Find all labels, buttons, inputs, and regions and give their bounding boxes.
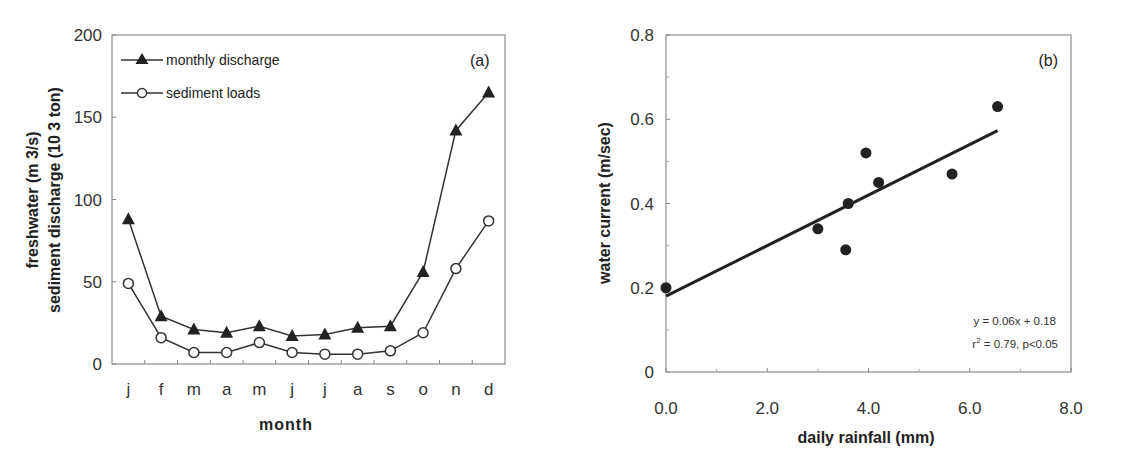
x-tick-label: a (353, 380, 363, 399)
circle-marker-icon (320, 349, 330, 359)
circle-marker-icon (418, 328, 428, 338)
data-point (992, 101, 1003, 112)
y-tick-label: 50 (83, 273, 102, 292)
circle-marker-icon (189, 347, 199, 357)
triangle-marker-icon (187, 322, 200, 334)
x-tick-label: j (322, 380, 327, 399)
regression-stats: r2 = 0.79, p<0.05 (972, 336, 1058, 350)
y-tick-label: 150 (74, 108, 102, 127)
circle-marker-icon (484, 216, 494, 226)
x-axis-title-b: daily rainfall (mm) (798, 429, 935, 446)
circle-marker-icon (353, 349, 363, 359)
y-axis-title-b: water current (m/sec) (596, 122, 613, 285)
x-tick-label: 2.0 (755, 399, 779, 418)
y-tick-label: 0.6 (630, 110, 654, 129)
x-tick-label: m (252, 380, 266, 399)
figure: 050100150200 jfmamjjasond monthly discha… (0, 0, 1144, 464)
data-point (843, 198, 854, 209)
regression-equation: y = 0.06x + 0.18 (974, 315, 1056, 327)
y-tick-label: 100 (74, 191, 102, 210)
triangle-marker-icon (122, 212, 135, 224)
y-tick-label: 0.4 (630, 195, 654, 214)
y-tick-label: 0.2 (630, 279, 654, 298)
circle-marker-icon (156, 333, 166, 343)
chart-b: 00.20.40.60.8 0.02.04.06.08.0 (b) y = 0.… (596, 26, 1083, 446)
x-tick-label: n (451, 380, 460, 399)
circle-marker-icon (222, 347, 232, 357)
data-point (947, 169, 958, 180)
x-tick-label: 8.0 (1059, 399, 1083, 418)
triangle-marker-icon (482, 86, 495, 98)
data-point (840, 244, 851, 255)
triangle-marker-icon (136, 53, 149, 64)
x-tick-label: j (289, 380, 294, 399)
panel-label-b: (b) (1038, 52, 1058, 69)
triangle-marker-icon (155, 309, 168, 321)
data-point (860, 147, 871, 158)
x-axis-title-a: month (259, 416, 313, 433)
data-point (661, 282, 672, 293)
x-tick-label: d (484, 380, 493, 399)
x-tick-label: s (386, 380, 395, 399)
circle-marker-icon (287, 347, 297, 357)
circle-marker-icon (254, 338, 264, 348)
circle-marker-icon (138, 89, 147, 98)
series-a (122, 86, 495, 360)
y-axis-b: 00.20.40.60.8 (630, 26, 670, 382)
x-tick-label: o (418, 380, 427, 399)
data-point (812, 223, 823, 234)
scatter-points (661, 101, 1004, 293)
legend-label-discharge: monthly discharge (166, 52, 280, 68)
x-axis-b: 0.02.04.06.08.0 (654, 368, 1083, 418)
y-tick-label: 200 (74, 26, 102, 45)
y-axis-title-a-line2: sediment discharge (10 3 ton) (46, 87, 63, 313)
circle-marker-icon (451, 264, 461, 274)
x-tick-label: a (222, 380, 232, 399)
legend-a: monthly discharge sediment loads (121, 52, 280, 101)
x-tick-label: 0.0 (654, 399, 678, 418)
triangle-marker-icon (384, 319, 397, 331)
triangle-marker-icon (253, 319, 266, 331)
triangle-marker-icon (417, 265, 430, 277)
chart-a: 050100150200 jfmamjjasond monthly discha… (24, 26, 505, 433)
x-tick-label: 4.0 (857, 399, 881, 418)
y-tick-label: 0 (645, 363, 654, 382)
series-line (128, 221, 488, 354)
x-tick-label: j (125, 380, 130, 399)
x-tick-label: m (187, 380, 201, 399)
series-line (128, 93, 488, 336)
data-point (873, 177, 884, 188)
circle-marker-icon (385, 346, 395, 356)
x-axis-a: jfmamjjasond (125, 360, 493, 399)
regression-line (666, 131, 998, 297)
circle-marker-icon (123, 278, 133, 288)
y-tick-label: 0 (93, 355, 102, 374)
triangle-marker-icon (351, 321, 364, 333)
x-tick-label: 6.0 (958, 399, 982, 418)
legend-label-sediment: sediment loads (166, 85, 260, 101)
panel-label-a: (a) (470, 52, 490, 69)
y-axis-a: 050100150200 (74, 26, 116, 374)
x-tick-label: f (159, 380, 164, 399)
y-axis-title-a-line1: freshwater (m 3/s) (24, 132, 41, 269)
y-tick-label: 0.8 (630, 26, 654, 45)
fit-line (666, 131, 998, 297)
